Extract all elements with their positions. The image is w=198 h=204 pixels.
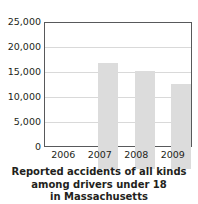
bar-chart-figure: 25,00020,00015,00010,0005,0000 200620072… — [0, 0, 198, 204]
y-axis-tick-label: 5,000 — [1, 117, 41, 127]
x-axis-tick-labels: 2006200720082009 — [45, 150, 191, 164]
y-axis-tick-label: 0 — [1, 142, 41, 152]
plot-frame — [44, 22, 192, 147]
x-axis-tick-label: 2007 — [88, 150, 112, 160]
y-axis-tick-label: 25,000 — [1, 17, 41, 27]
y-axis-tick-label: 15,000 — [1, 67, 41, 77]
y-axis-tick-label: 20,000 — [1, 42, 41, 52]
plot-region: 25,00020,00015,00010,0005,0000 200620072… — [0, 0, 198, 148]
x-axis-tick-label: 2008 — [124, 150, 148, 160]
x-axis-tick-label: 2009 — [161, 150, 185, 160]
chart-caption: Reported accidents of all kindsamong dri… — [0, 166, 198, 204]
caption-line: in Massachusetts — [0, 191, 198, 204]
caption-line: Reported accidents of all kinds — [0, 166, 198, 179]
y-axis-tick-label: 10,000 — [1, 92, 41, 102]
caption-line: among drivers under 18 — [0, 179, 198, 192]
y-axis-tick-labels: 25,00020,00015,00010,0005,0000 — [0, 22, 41, 147]
x-axis-tick-label: 2006 — [51, 150, 75, 160]
